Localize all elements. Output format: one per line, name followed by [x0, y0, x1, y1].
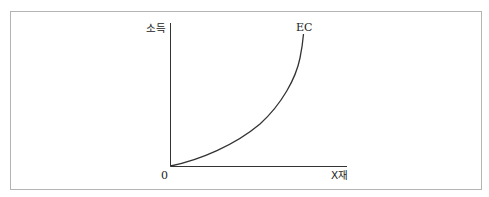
engel-curve-ec — [171, 34, 304, 166]
origin-label: 0 — [161, 170, 168, 181]
x-axis-label: X재 — [331, 170, 348, 181]
engel-curve-diagram — [0, 0, 489, 197]
curve-label-ec: EC — [296, 22, 312, 33]
y-axis-label: 소득 — [146, 23, 166, 34]
